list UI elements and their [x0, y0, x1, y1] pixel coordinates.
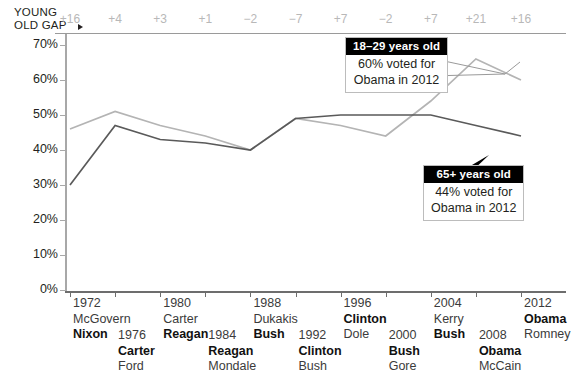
election-label-1988: 1988DukakisBush: [253, 296, 297, 343]
callout-65-plus-header: 65+ years old: [424, 166, 523, 183]
callout-65-plus: 65+ years old 44% voted for Obama in 201…: [423, 165, 524, 221]
election-candidate-winner: Clinton: [344, 312, 387, 328]
y-axis-tick: [60, 80, 65, 81]
election-candidate-winner: Obama: [479, 344, 521, 360]
election-year: 1996: [344, 296, 387, 312]
y-axis-tick: [60, 185, 65, 186]
election-year: 1980: [163, 296, 208, 312]
election-candidate-loser: Dole: [344, 327, 387, 343]
election-candidate-loser: Bush: [299, 359, 342, 375]
election-year: 2008: [479, 328, 521, 344]
election-label-2004: 2004KerryBush: [434, 296, 465, 343]
election-year: 2004: [434, 296, 465, 312]
election-year: 1972: [73, 296, 131, 312]
election-year: 2000: [389, 328, 420, 344]
election-label-2012: 2012ObamaRomney: [524, 296, 571, 343]
election-candidate-winner: Clinton: [299, 344, 342, 360]
callout-65-plus-line2: Obama in 2012: [431, 201, 516, 217]
election-label-1984: 1984ReaganMondale: [208, 328, 256, 375]
callout-65-plus-body: 44% voted for Obama in 2012: [424, 183, 523, 220]
election-candidate-loser: Mondale: [208, 359, 256, 375]
election-year: 1988: [253, 296, 297, 312]
election-label-1976: 1976CarterFord: [118, 328, 155, 375]
election-label-1996: 1996ClintonDole: [344, 296, 387, 343]
y-axis-tick: [60, 150, 65, 151]
election-candidate-winner: Bush: [253, 327, 297, 343]
election-candidate-loser: Gore: [389, 359, 420, 375]
election-label-2000: 2000BushGore: [389, 328, 420, 375]
y-axis-tick: [60, 220, 65, 221]
election-candidate-loser: Romney: [524, 327, 571, 343]
callout-18-29-body: 60% voted for Obama in 2012: [346, 55, 447, 92]
y-axis-tick: [60, 45, 65, 46]
election-candidate-loser: Carter: [163, 312, 208, 328]
callout-18-29-header: 18–29 years old: [346, 38, 447, 55]
election-candidate-winner: Bush: [434, 327, 465, 343]
election-year: 1976: [118, 328, 155, 344]
election-year: 2012: [524, 296, 571, 312]
callout-65-plus-line1: 44% voted for: [431, 185, 516, 201]
callout-18-29-line1: 60% voted for: [353, 57, 440, 73]
election-candidate-winner: Reagan: [208, 344, 256, 360]
y-axis-tick: [60, 290, 65, 291]
election-candidate-loser: Ford: [118, 359, 155, 375]
election-candidate-loser: McCain: [479, 359, 521, 375]
election-year: 1992: [299, 328, 342, 344]
y-axis-tick: [60, 255, 65, 256]
election-label-2008: 2008ObamaMcCain: [479, 328, 521, 375]
election-candidate-winner: Bush: [389, 344, 420, 360]
election-candidate-loser: Kerry: [434, 312, 465, 328]
election-candidate-loser: Dukakis: [253, 312, 297, 328]
election-candidate-winner: Carter: [118, 344, 155, 360]
y-axis-tick: [60, 115, 65, 116]
election-label-1980: 1980CarterReagan: [163, 296, 208, 343]
callout-18-29-line2: Obama in 2012: [353, 73, 440, 89]
callout-18-29: 18–29 years old 60% voted for Obama in 2…: [345, 37, 448, 93]
election-candidate-winner: Obama: [524, 312, 571, 328]
election-label-1992: 1992ClintonBush: [299, 328, 342, 375]
election-year: 1984: [208, 328, 256, 344]
election-candidate-loser: McGovern: [73, 312, 131, 328]
election-candidate-winner: Reagan: [163, 327, 208, 343]
